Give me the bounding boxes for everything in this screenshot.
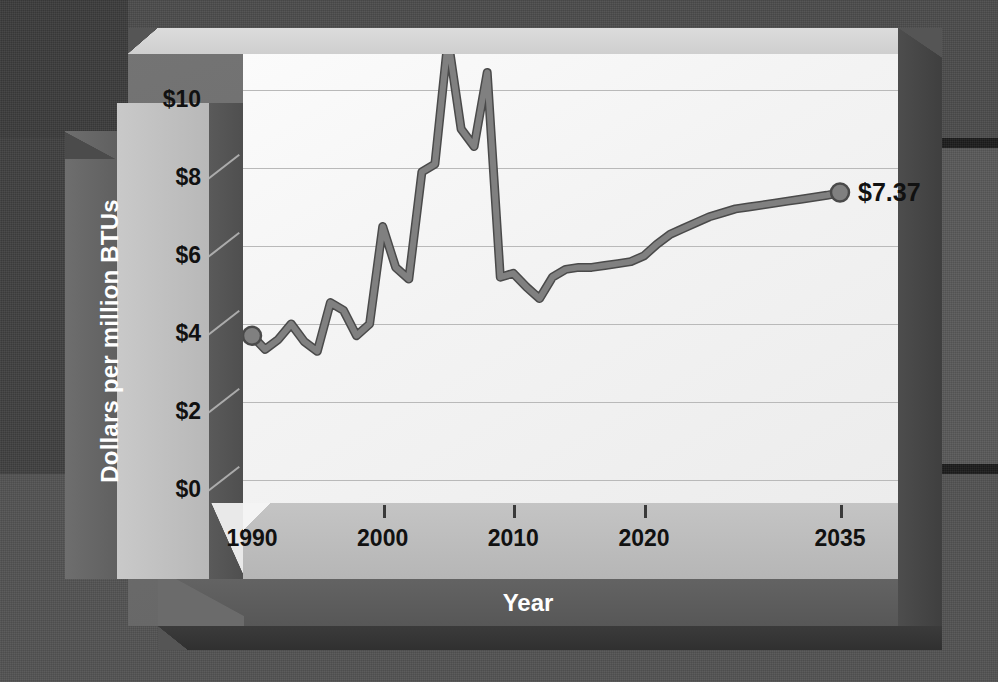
y-tick-label: $4 — [121, 322, 201, 345]
x-axis-title-left-bevel — [158, 579, 244, 626]
x-tick-mark — [513, 505, 516, 518]
chart-3d-right-face — [898, 28, 942, 626]
chart-3d-bottom-left-bevel — [158, 626, 188, 650]
chart-3d-top-left-bevel — [128, 28, 158, 54]
y-tick-label: $10 — [121, 88, 201, 111]
x-tick-label: 2000 — [328, 525, 438, 552]
x-tick-label: 2010 — [458, 525, 568, 552]
x-axis-left-bevel — [243, 503, 271, 531]
y-gridline-stub — [209, 310, 240, 340]
y-tick-label: $8 — [121, 166, 201, 189]
end-value-label: $7.37 — [858, 178, 921, 207]
y-gridline-stub — [209, 232, 240, 262]
y-axis-title-container: Dollars per million BTUs — [65, 131, 117, 579]
y-gridline-stub — [209, 103, 240, 106]
data-series-line — [243, 54, 898, 503]
y-axis-title: Dollars per million BTUs — [96, 176, 124, 506]
y-tick-label: $6 — [121, 244, 201, 267]
plot-area — [243, 54, 898, 503]
y-axis-tick-panel: $10$8$6$4$2$0 — [117, 103, 209, 579]
x-axis-title: Year — [503, 589, 554, 617]
x-tick-mark — [383, 505, 386, 518]
x-tick-mark — [840, 505, 843, 518]
chart-3d-top-face — [128, 28, 898, 54]
y-gridline-stub — [209, 154, 240, 184]
y-tick-label: $0 — [121, 478, 201, 501]
x-tick-mark — [644, 505, 647, 518]
chart-screenshot: $7.37 $10$8$6$4$2$0 Dollars per million … — [0, 0, 998, 682]
x-axis-title-band: Year — [158, 579, 898, 626]
y-gridline-stub — [209, 388, 240, 418]
x-axis-strip: 19902000201020202035 — [243, 503, 898, 579]
chart-3d-top-right-bevel — [898, 28, 942, 58]
y-gridline-stub — [209, 466, 240, 496]
x-tick-label: 2035 — [785, 525, 895, 552]
x-tick-label: 2020 — [589, 525, 699, 552]
chart-3d-bottom-face — [158, 626, 942, 650]
y-tick-label: $2 — [121, 400, 201, 423]
